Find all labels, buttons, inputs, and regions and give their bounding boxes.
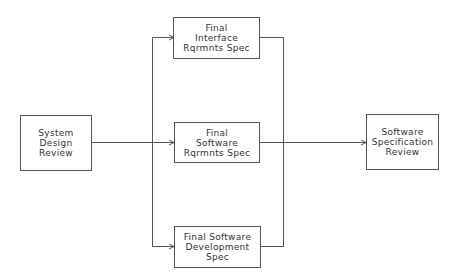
node-label-line: Interface <box>195 33 238 43</box>
node-label-line: Rqrmnts Spec <box>184 148 251 158</box>
node-final-software-development-spec: Final Software Development Spec <box>174 226 261 268</box>
node-label-line: Design <box>40 138 73 148</box>
node-label-line: Software <box>196 138 238 148</box>
node-label-line: Specification <box>372 137 434 147</box>
node-label-line: Spec <box>206 252 229 262</box>
node-label-line: Rqrmnts Spec <box>183 43 250 53</box>
node-label-line: Development <box>186 242 250 252</box>
node-label-line: Review <box>39 148 73 158</box>
node-label-line: Final <box>206 128 228 138</box>
node-label-line: Software <box>381 127 423 137</box>
node-label-line: System <box>38 128 73 138</box>
node-final-interface-rqrmnts-spec: Final Interface Rqrmnts Spec <box>173 17 260 59</box>
node-label-line: Final Software <box>184 232 251 242</box>
node-label-line: Final <box>205 23 227 33</box>
node-software-specification-review: Software Specification Review <box>366 114 439 170</box>
node-label-line: Review <box>386 147 420 157</box>
node-system-design-review: System Design Review <box>20 115 92 171</box>
node-final-software-rqrmnts-spec: Final Software Rqrmnts Spec <box>174 122 260 163</box>
